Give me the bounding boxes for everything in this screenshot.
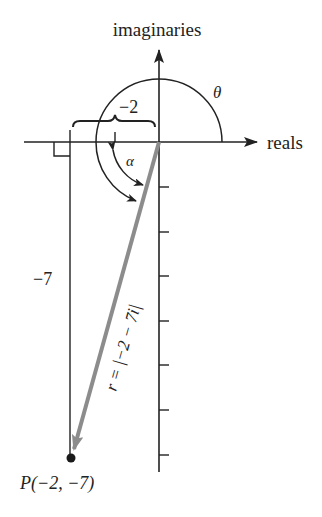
- imaginary-ticks: [159, 187, 169, 455]
- complex-plane-diagram: imaginaries reals θ −2 α −7 r = |−2 − 7i…: [0, 0, 322, 517]
- modulus-label: r = |−2 − 7i|: [102, 302, 145, 393]
- theta-label: θ: [213, 83, 221, 102]
- alpha-label: α: [126, 153, 135, 169]
- real-axis-label: reals: [267, 132, 303, 153]
- point-label: P(−2, −7): [19, 473, 94, 494]
- horizontal-measure-label: −2: [119, 97, 138, 117]
- brace-horizontal: [73, 115, 155, 127]
- imaginary-axis-label: imaginaries: [113, 19, 202, 40]
- right-angle-marker: [54, 142, 70, 156]
- vertical-measure-label: −7: [33, 269, 52, 289]
- point-p: [67, 454, 76, 463]
